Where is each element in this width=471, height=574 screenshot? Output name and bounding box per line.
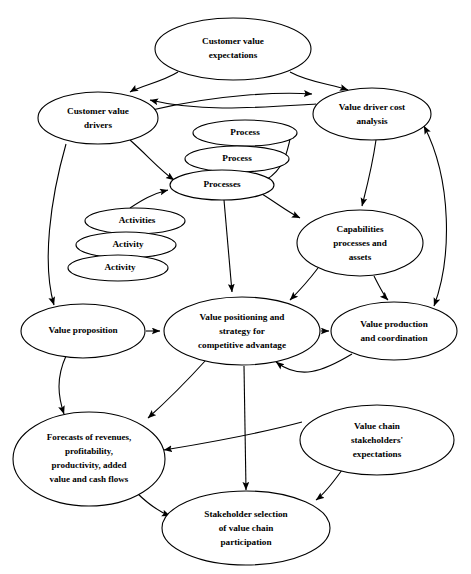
node-label-activity-bottom: Activity [104,262,136,272]
node-shape [38,92,158,144]
node-activity-bottom[interactable]: Activity [68,255,168,281]
edge-processes-to-value-positioning [224,200,232,292]
node-shape [313,88,431,140]
edge-capabilities-to-value-positioning [290,268,318,300]
node-processes-bottom[interactable]: Processes [170,170,274,200]
edge-activities-to-processes [130,190,168,208]
node-process-top[interactable]: Process [193,120,297,146]
edge-vcse-to-forecasts [164,422,302,450]
value-chain-flow-diagram: Process Process Processes Activities Act… [0,0,471,574]
node-label-line-2: stakeholders' [351,435,403,445]
node-label-line-2: strategy for [219,326,265,336]
node-label-line-1: Value driver cost [339,102,406,112]
node-label-line-2: analysis [356,116,388,126]
edge-value-positioning-to-stakeholder-selection [244,366,246,490]
edge-cve-to-cvd [130,72,178,92]
node-value-driver-cost-analysis[interactable]: Value driver cost analysis [313,88,431,140]
edge-vcse-to-stakeholder-selection [316,470,342,500]
node-value-chain-stakeholders-expectations[interactable]: Value chain stakeholders' expectations [300,405,454,475]
node-label-line-1: Capabilities [337,224,384,234]
node-label-activities: Activities [119,215,156,225]
node-label-line-2: expectations [209,50,258,60]
node-label-line-2: drivers [84,120,112,130]
node-label-line-2: of value chain [219,523,274,533]
node-shape [13,412,165,506]
edge-vdca-to-vpc [424,126,446,306]
node-label-line-3: productivity, added [52,460,127,470]
edge-vdca-to-capabilities [362,140,376,206]
edge-cvd-to-value-proposition [48,144,66,305]
node-customer-value-drivers[interactable]: Customer value drivers [38,92,158,144]
edge-value-positioning-to-forecasts [148,360,206,418]
node-process-middle[interactable]: Process [185,146,289,172]
node-value-proposition[interactable]: Value proposition [21,304,145,358]
edge-vdca-to-cvd [150,100,316,108]
node-label-line-1: Customer value [202,36,264,46]
node-label-line-3: expectations [353,449,402,459]
edge-processes-to-capabilities [262,194,300,218]
edge-cvd-to-processes [130,140,174,180]
node-activity-middle[interactable]: Activity [76,232,176,258]
node-label-line-1: Value production [360,319,428,329]
node-shape [155,18,311,80]
node-stakeholder-selection[interactable]: Stakeholder selection of value chain par… [162,491,330,565]
node-value-production-coordination[interactable]: Value production and coordination [331,302,457,360]
edge-forecasts-to-stakeholder-selection [136,492,170,516]
node-label-line-2: and coordination [360,333,427,343]
edge-cve-to-vdca [290,72,348,90]
node-shape [331,302,457,360]
node-label-line-3: participation [220,537,271,547]
node-label-line-3: competitive advantage [198,340,286,350]
node-label-process-middle: Process [222,153,252,163]
node-customer-value-expectations[interactable]: Customer value expectations [155,18,311,80]
node-forecasts[interactable]: Forecasts of revenues, profitability, pr… [13,412,165,506]
node-label-line-1: Stakeholder selection [204,509,287,519]
node-label-line-1: Customer value [67,106,129,116]
edge-value-proposition-to-forecasts [59,356,66,414]
node-label-line-2: profitability, [65,446,113,456]
node-capabilities-processes-assets[interactable]: Capabilities processes and assets [297,210,423,276]
edge-capabilities-to-vpc [374,276,388,300]
node-label-line-4: value and cash flows [50,474,129,484]
node-label-processes: Processes [203,179,241,189]
node-label-line-1: Value chain [354,421,400,431]
node-label-line-2: processes and [333,238,387,248]
node-label-activity-middle: Activity [112,239,144,249]
diagram-canvas: Process Process Processes Activities Act… [0,0,471,574]
nodes-layer: Process Process Processes Activities Act… [13,18,457,565]
node-activities-top[interactable]: Activities [85,208,185,234]
node-label-process-top: Process [230,127,260,137]
node-label-line-3: assets [349,252,372,262]
node-label-line-1: Value positioning and [200,312,285,322]
node-label-line-1: Forecasts of revenues, [47,432,131,442]
node-label-value-proposition: Value proposition [48,325,117,335]
node-value-positioning-strategy[interactable]: Value positioning and strategy for compe… [164,297,320,365]
